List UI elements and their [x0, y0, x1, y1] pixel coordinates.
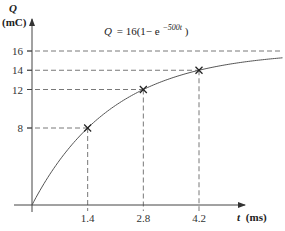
x-tick-label: 2.8 — [136, 212, 150, 224]
equation-exponent: −500t — [162, 23, 182, 32]
y-axis-unit: (mC) — [2, 16, 27, 29]
equation-lhs: Q — [104, 25, 112, 37]
x-axis-symbol: t — [237, 211, 241, 223]
x-axis-unit: (ms) — [246, 211, 267, 224]
x-tick-label: 1.4 — [81, 212, 95, 224]
x-tick-labels: 1.42.84.2 — [81, 212, 206, 224]
equation-suffix: ) — [185, 25, 189, 38]
y-tick-labels: 8121416 — [12, 45, 32, 134]
x-tick-label: 4.2 — [192, 212, 206, 224]
x-axis-label: t (ms) — [237, 211, 267, 224]
y-tick-label: 8 — [18, 122, 24, 134]
dashed-guide-lines — [27, 51, 283, 211]
equation-rhs: = 16(1− e — [117, 25, 160, 38]
y-tick-label: 14 — [12, 64, 24, 76]
charge-curve-line — [32, 58, 283, 205]
y-axis-symbol: Q — [9, 2, 17, 14]
y-tick-label: 16 — [12, 45, 24, 57]
charge-curve-chart: 1.42.84.2 8121416 Q (mC) t (ms) Q = 16(1… — [0, 0, 285, 231]
equation-label: Q = 16(1− e −500t ) — [104, 20, 189, 38]
y-tick-label: 12 — [12, 84, 23, 96]
